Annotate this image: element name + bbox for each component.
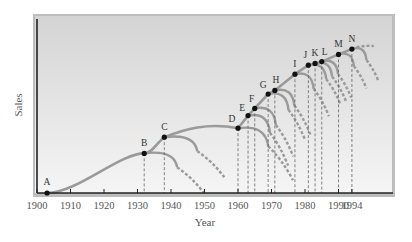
point-label-j: J xyxy=(303,50,307,60)
x-tick-label: 1970 xyxy=(261,200,282,211)
data-point-c xyxy=(162,135,167,140)
point-label-i: I xyxy=(293,59,296,69)
data-point-g xyxy=(266,91,271,96)
point-label-a: A xyxy=(44,177,51,187)
y-axis-title: Sales xyxy=(12,93,24,116)
point-label-b: B xyxy=(141,138,147,148)
x-tick-label: 1940 xyxy=(161,200,182,211)
point-label-e: E xyxy=(239,103,245,113)
sales-chart: 1900191019201930194019501960197019801990… xyxy=(0,0,412,242)
x-tick-label: 1920 xyxy=(94,200,115,211)
data-point-i xyxy=(292,72,297,77)
data-point-m xyxy=(336,52,341,57)
data-point-d xyxy=(235,126,240,131)
x-tick-label: 1950 xyxy=(194,200,215,211)
point-label-m: M xyxy=(334,39,343,49)
x-tick-label: 1900 xyxy=(27,200,48,211)
data-point-b xyxy=(142,151,147,156)
point-label-h: H xyxy=(272,75,279,85)
data-point-n xyxy=(349,46,354,51)
x-tick-label: 1910 xyxy=(60,200,81,211)
data-point-f xyxy=(252,106,257,111)
x-tick-label: 1930 xyxy=(127,200,148,211)
data-point-e xyxy=(245,113,250,118)
x-tick-label: 1994 xyxy=(341,200,363,211)
point-label-c: C xyxy=(161,122,167,132)
data-point-l xyxy=(319,59,324,64)
point-label-d: D xyxy=(229,114,236,124)
point-label-l: L xyxy=(322,47,328,57)
point-label-k: K xyxy=(312,48,319,58)
point-label-g: G xyxy=(260,80,267,90)
data-point-a xyxy=(44,190,49,195)
data-point-k xyxy=(312,61,317,66)
data-point-h xyxy=(272,88,277,93)
x-tick-label: 1960 xyxy=(228,200,249,211)
data-point-j xyxy=(306,63,311,68)
x-axis-title: Year xyxy=(195,216,216,228)
x-tick-label: 1980 xyxy=(295,200,316,211)
point-label-n: N xyxy=(348,34,355,44)
point-label-f: F xyxy=(249,94,254,104)
